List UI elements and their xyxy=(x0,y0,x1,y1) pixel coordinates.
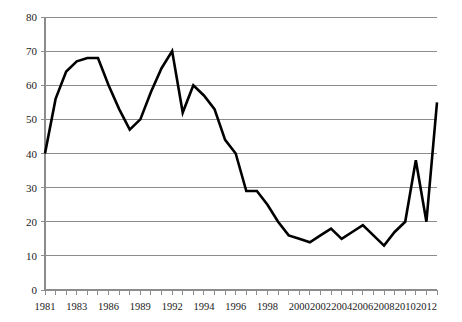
chart-background xyxy=(0,0,462,322)
y-axis-tick-label: 50 xyxy=(26,113,38,125)
y-axis-labels-group: 01020304050607080 xyxy=(26,11,38,296)
x-axis-tick-label: 2004 xyxy=(331,301,353,312)
x-axis-tick-label: 1989 xyxy=(130,301,151,312)
y-axis-tick-label: 40 xyxy=(26,148,38,160)
x-axis-tick-label: 1983 xyxy=(66,301,87,312)
x-axis-tick-label: 2008 xyxy=(374,301,395,312)
x-axis-tick-label: 1998 xyxy=(257,301,278,312)
line-chart: 01020304050607080 1981198319861989199219… xyxy=(0,0,462,322)
y-axis-tick-label: 80 xyxy=(26,11,38,23)
y-axis-tick-label: 10 xyxy=(26,250,38,262)
x-axis-tick-label: 2006 xyxy=(352,301,373,312)
y-axis-tick-label: 30 xyxy=(26,182,38,194)
y-axis-tick-label: 20 xyxy=(26,216,38,228)
x-axis-tick-label: 2000 xyxy=(289,301,310,312)
x-axis-tick-label: 2010 xyxy=(395,301,416,312)
y-axis-tick-label: 60 xyxy=(26,79,38,91)
x-axis-tick-label: 1981 xyxy=(35,301,56,312)
y-axis-tick-label: 70 xyxy=(26,45,38,57)
x-axis-tick-label: 2012 xyxy=(416,301,437,312)
x-axis-tick-label: 1992 xyxy=(162,301,183,312)
x-axis-tick-label: 1986 xyxy=(98,301,119,312)
x-axis-tick-label: 1994 xyxy=(193,301,215,312)
chart-container: 01020304050607080 1981198319861989199219… xyxy=(0,0,462,322)
y-axis-tick-label: 0 xyxy=(32,284,38,296)
x-axis-tick-label: 1996 xyxy=(225,301,246,312)
x-axis-tick-label: 2002 xyxy=(310,301,331,312)
